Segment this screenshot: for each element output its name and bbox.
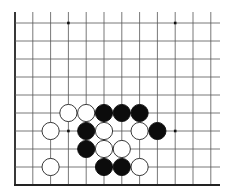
black-stone — [95, 158, 112, 175]
white-stone — [78, 104, 95, 121]
go-board — [0, 0, 236, 193]
star-point — [174, 22, 177, 25]
black-stone — [95, 104, 112, 121]
star-point — [67, 22, 70, 25]
star-point — [174, 130, 177, 133]
board-grid — [14, 12, 220, 185]
black-stone — [131, 104, 148, 121]
black-stone — [113, 158, 130, 175]
star-point — [67, 130, 70, 133]
white-stone — [131, 158, 148, 175]
black-stone — [113, 104, 130, 121]
black-stone — [78, 122, 95, 139]
white-stone — [42, 122, 59, 139]
white-stone — [95, 140, 112, 157]
white-stone — [113, 140, 130, 157]
white-stone — [60, 104, 77, 121]
stones-layer — [42, 104, 166, 175]
white-stone — [95, 122, 112, 139]
white-stone — [42, 158, 59, 175]
black-stone — [78, 140, 95, 157]
black-stone — [149, 122, 166, 139]
white-stone — [131, 122, 148, 139]
